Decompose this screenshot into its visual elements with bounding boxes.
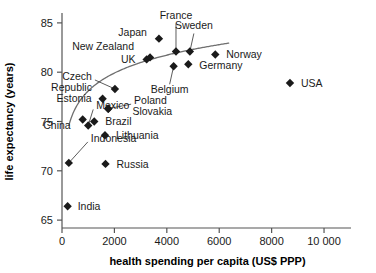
y-tick-label: 85 [41, 17, 53, 29]
point-label: Mexico [96, 99, 129, 111]
x-tick-label: 6000 [207, 235, 231, 247]
point-label: Belgium [151, 83, 189, 95]
point-label: Slovakia [132, 105, 172, 117]
x-tick-label: 0 [59, 235, 65, 247]
point-label: Lithuania [116, 129, 159, 141]
chart-canvas: 65707580850200040006000800010 000 IndiaI… [0, 0, 376, 273]
point-label: Russia [116, 158, 148, 170]
data-point-marker[interactable] [111, 85, 119, 93]
leader-line [69, 142, 88, 163]
point-label: Estonia [57, 92, 92, 104]
y-axis-title: life expectancy (years) [3, 62, 15, 180]
point-label-line: Republic [51, 81, 92, 93]
point-label-line: Czech [62, 70, 92, 82]
scatter-chart: 65707580850200040006000800010 000 IndiaI… [0, 0, 376, 273]
data-point-marker[interactable] [169, 62, 177, 70]
point-label: CzechRepublic [51, 70, 92, 94]
leader-line [95, 80, 115, 89]
x-axis-title: health spending per capita (US$ PPP) [109, 255, 306, 267]
x-tick-label: 2000 [102, 235, 126, 247]
point-label: Germany [199, 59, 243, 71]
x-tick-label: 10 000 [307, 235, 341, 247]
x-tick-label: 8000 [259, 235, 283, 247]
data-point-marker[interactable] [186, 47, 194, 55]
point-label: India [78, 200, 101, 212]
y-tick-label: 70 [41, 165, 53, 177]
point-label: New Zealand [72, 40, 134, 52]
data-point-marker[interactable] [101, 160, 109, 168]
data-point-marker[interactable] [184, 60, 192, 68]
point-labels-layer: IndiaIndonesiaChinaMexicoBrazilEstoniaLi… [43, 9, 322, 211]
point-label: UK [121, 53, 136, 65]
data-point-marker[interactable] [155, 34, 163, 42]
point-label: USA [301, 77, 323, 89]
point-label: Japan [118, 26, 147, 38]
data-point-marker[interactable] [63, 202, 71, 210]
y-tick-label: 65 [41, 214, 53, 226]
data-point-marker[interactable] [211, 50, 219, 58]
point-label: China [43, 119, 71, 131]
point-label: Brazil [105, 115, 131, 127]
data-point-marker[interactable] [79, 115, 87, 123]
data-points-layer [63, 34, 294, 210]
point-label: Sweden [175, 19, 213, 31]
point-label: Norway [226, 48, 262, 60]
data-point-marker[interactable] [172, 47, 180, 55]
data-point-marker[interactable] [286, 79, 294, 87]
y-tick-label: 80 [41, 66, 53, 78]
x-tick-label: 4000 [155, 235, 179, 247]
